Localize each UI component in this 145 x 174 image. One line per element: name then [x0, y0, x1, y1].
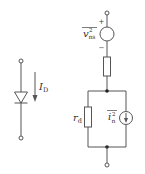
- circuit-diagram: ID + − v 2 ns rd i 2 n: [0, 0, 145, 174]
- current-arrow-head-icon: [33, 95, 38, 102]
- diode-branch: [15, 59, 38, 140]
- diode-triangle-icon: [15, 92, 28, 103]
- parallel-top-wire: [88, 91, 126, 111]
- plus-sign: +: [99, 18, 105, 26]
- rd-label: rd: [73, 112, 82, 125]
- voltage-source-icon: [100, 27, 114, 41]
- vns-subscript: ns: [89, 33, 96, 40]
- series-resistor: [104, 57, 111, 76]
- in-subscript: n: [112, 117, 116, 124]
- parallel-bottom-wire: [88, 124, 126, 147]
- bottom-terminal: [105, 163, 109, 167]
- diode-bottom-terminal: [19, 136, 23, 140]
- top-terminal: [105, 11, 109, 15]
- minus-sign: −: [99, 44, 105, 52]
- diode-top-terminal: [19, 59, 23, 63]
- parallel-resistor-rd: [85, 107, 92, 127]
- current-label: ID: [38, 81, 48, 94]
- top-junction-dot: [105, 89, 109, 93]
